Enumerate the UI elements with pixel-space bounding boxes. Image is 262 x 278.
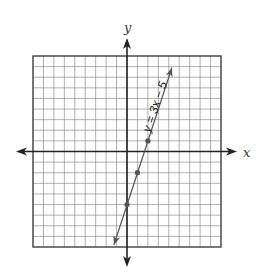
y-axis-label: y bbox=[123, 20, 132, 35]
x-axis-label: x bbox=[243, 145, 251, 160]
plotted-point bbox=[145, 138, 150, 143]
plotted-point bbox=[135, 170, 140, 175]
plotted-point bbox=[124, 202, 129, 207]
axes bbox=[16, 38, 237, 267]
coordinate-plane: x y y = 3x − 5 bbox=[0, 0, 262, 278]
